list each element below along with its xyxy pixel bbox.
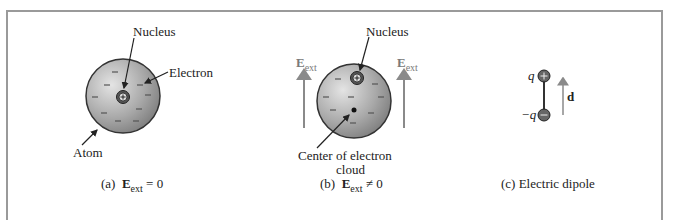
label-eext-left: Eext (296, 56, 317, 73)
negative-charge-icon (538, 109, 550, 121)
label-center-electron-cloud-2: cloud (336, 163, 365, 176)
caption-a: (a) Eext = 0 (101, 176, 163, 194)
caption-c: (c) Electric dipole (501, 176, 595, 192)
nucleus-icon (351, 72, 364, 85)
label-nucleus-a: Nucleus (133, 25, 176, 38)
nucleus-icon (117, 91, 130, 104)
label-atom: Atom (73, 146, 103, 159)
positive-charge-icon (538, 70, 550, 82)
label-electron: Electron (169, 66, 213, 79)
label-center-electron-cloud-1: Center of electron (298, 149, 392, 162)
atom-a (82, 38, 168, 145)
label-eext-right: Eext (397, 56, 418, 73)
electron-cloud-center-dot (352, 108, 357, 113)
electric-dipole (538, 70, 563, 121)
label-nucleus-b: Nucleus (366, 25, 409, 38)
label-negative-charge: −q (521, 108, 536, 121)
label-dipole-vector: d (567, 90, 574, 103)
caption-b: (b) Eext ≠ 0 (320, 176, 383, 194)
label-positive-charge: q (528, 69, 535, 82)
atom-b (304, 37, 404, 148)
